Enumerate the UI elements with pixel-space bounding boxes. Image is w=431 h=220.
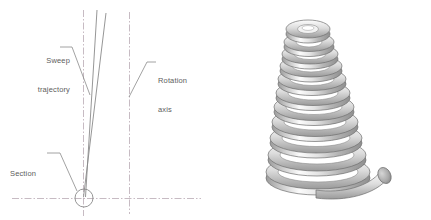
rotation-axis-label: Rotation axis: [158, 57, 218, 133]
rotation-leader-line: [129, 62, 156, 97]
conical-spring-svg: [230, 0, 431, 220]
sweep-trajectory-label-line1: Sweep: [16, 56, 70, 66]
sweep-trajectory-label: Sweep trajectory: [16, 37, 70, 113]
section-label-line1: Section: [10, 169, 56, 179]
section-label: Section: [10, 150, 56, 198]
rotation-axis-label-line1: Rotation: [158, 76, 218, 86]
sweep-diagram-panel: Sweep trajectory Rotation axis Section: [0, 0, 230, 220]
conical-spring-body: [266, 20, 394, 199]
conical-spring-render-panel: [230, 0, 431, 220]
sweep-trajectory-label-line2: trajectory: [16, 85, 70, 95]
screenshot-root: Sweep trajectory Rotation axis Section: [0, 0, 431, 220]
spring-coil-1: [286, 20, 330, 43]
rotation-axis-label-line2: axis: [158, 105, 218, 115]
